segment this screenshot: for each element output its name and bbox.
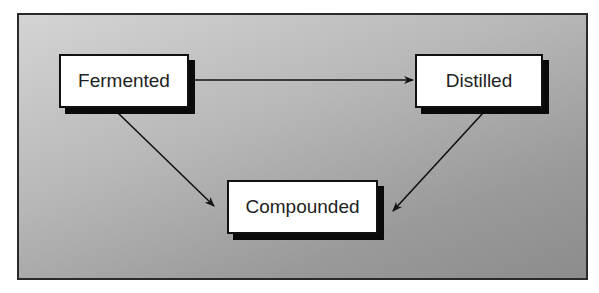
edges-layer: [0, 0, 599, 293]
node-distilled: Distilled: [415, 54, 543, 108]
node-compounded: Compounded: [227, 180, 378, 234]
node-compounded-label: Compounded: [245, 196, 359, 218]
node-fermented: Fermented: [59, 54, 189, 108]
node-distilled-label: Distilled: [446, 70, 513, 92]
arrow-distilled-to-compounded: [393, 113, 483, 211]
node-fermented-label: Fermented: [78, 70, 170, 92]
arrow-fermented-to-compounded: [118, 113, 214, 206]
